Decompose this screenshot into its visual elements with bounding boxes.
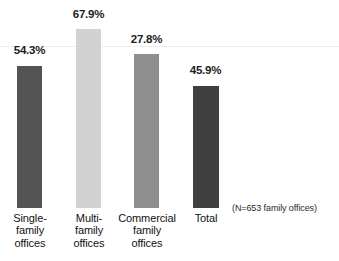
bar-commercial-family-offices — [134, 54, 159, 208]
value-label-commercial-family-offices: 27.8% — [124, 33, 169, 45]
value-label-multi-family-offices: 67.9% — [66, 8, 111, 20]
bar-multi-family-offices — [76, 29, 101, 208]
bar-chart: 54.3% Single- family offices 67.9% Multi… — [0, 0, 339, 261]
value-label-single-family-offices: 54.3% — [7, 44, 52, 56]
bar-single-family-offices — [17, 66, 42, 208]
category-label-multi-family-offices: Multi- family offices — [64, 212, 114, 249]
sample-size-annotation: (N=653 family offices) — [232, 203, 317, 213]
bar-total — [193, 86, 219, 208]
value-label-total: 45.9% — [183, 64, 228, 76]
category-label-total: Total — [181, 212, 231, 224]
category-label-single-family-offices: Single- family offices — [5, 212, 55, 249]
category-label-commercial-family-offices: Commercial family offices — [113, 212, 181, 249]
